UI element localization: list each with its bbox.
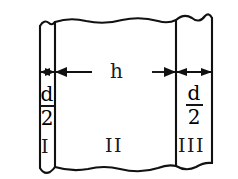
dimension-middle-left-half [55,67,92,77]
arrowhead-h-pointing-left [55,67,67,77]
left-fraction-denominator: 2 [34,108,60,128]
label-region-three: III [178,136,205,155]
bottom-break-left [40,167,55,173]
bottom-break-right [176,163,212,169]
arrowhead-right-pointing-left [176,68,187,76]
bottom-break-lines [40,163,212,173]
dimension-left-thickness [40,68,55,76]
bottom-break-middle [55,165,176,171]
arrowhead-right-pointing-right [201,68,212,76]
top-break-right [176,14,212,20]
right-fraction-denominator: 2 [181,107,207,127]
left-fraction-numerator: d [34,84,60,105]
right-fraction-numerator: d [181,83,207,104]
label-middle-thickness: h [110,61,123,81]
top-break-left [40,22,55,26]
arrowhead-h-pointing-right [164,67,176,77]
top-break-middle [55,18,176,23]
label-left-thickness-fraction: d 2 [34,84,60,129]
dimension-right-thickness [176,68,212,76]
label-region-two: II [105,136,123,155]
diagram-canvas: d 2 d 2 h I II III [0,0,238,179]
label-region-one: I [41,137,50,156]
dimension-middle-right-half [152,67,176,77]
label-right-thickness-fraction: d 2 [181,83,207,128]
top-break-lines [40,14,212,26]
